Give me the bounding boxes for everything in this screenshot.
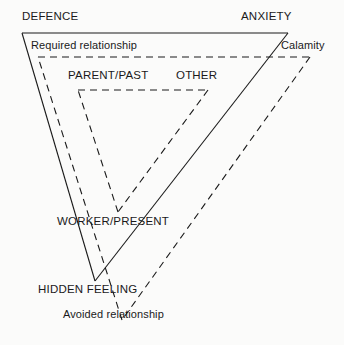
label-parent-past: PARENT/PAST xyxy=(68,70,148,82)
label-calamity: Calamity xyxy=(281,40,325,51)
label-required-relationship: Required relationship xyxy=(31,40,137,51)
label-other: OTHER xyxy=(176,70,217,82)
inner-triangle-dashed xyxy=(78,90,208,212)
triangle-diagram: DEFENCE ANXIETY HIDDEN FEELING Required … xyxy=(0,0,344,345)
middle-triangle-dashed xyxy=(38,57,310,320)
edge-calamity-avoided xyxy=(122,57,310,320)
edge-worker-parent xyxy=(78,90,118,212)
label-defence: DEFENCE xyxy=(22,11,78,23)
label-avoided-relationship: Avoided relationship xyxy=(63,309,164,320)
outer-triangle-solid xyxy=(22,33,288,281)
label-hidden-feeling: HIDDEN FEELING xyxy=(38,284,137,296)
label-anxiety: ANXIETY xyxy=(241,11,292,23)
label-worker-present: WORKER/PRESENT xyxy=(57,216,169,228)
